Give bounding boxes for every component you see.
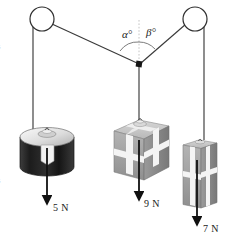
beta-angle-arc xyxy=(139,42,155,49)
right-force-label: 7 N xyxy=(203,224,219,234)
diagram-canvas xyxy=(0,0,233,236)
beta-angle-label: β° xyxy=(146,27,156,38)
right-weight-block xyxy=(183,139,217,208)
clipped-edge-mark-top: s xyxy=(0,41,3,51)
physics-pulley-diagram: α° β° 5 N 9 N 7 N s s xyxy=(0,0,233,236)
center-force-label: 9 N xyxy=(144,199,160,209)
left-force-label: 5 N xyxy=(53,203,69,213)
cord-system xyxy=(33,20,204,140)
alpha-angle-arc xyxy=(120,42,139,51)
left-pulley xyxy=(30,7,54,31)
clipped-edge-mark-bottom: s xyxy=(0,175,3,185)
cord-junction-knot xyxy=(136,61,143,68)
alpha-angle-label: α° xyxy=(122,29,132,40)
center-weight-cube xyxy=(114,119,169,180)
right-pulley xyxy=(183,7,207,31)
